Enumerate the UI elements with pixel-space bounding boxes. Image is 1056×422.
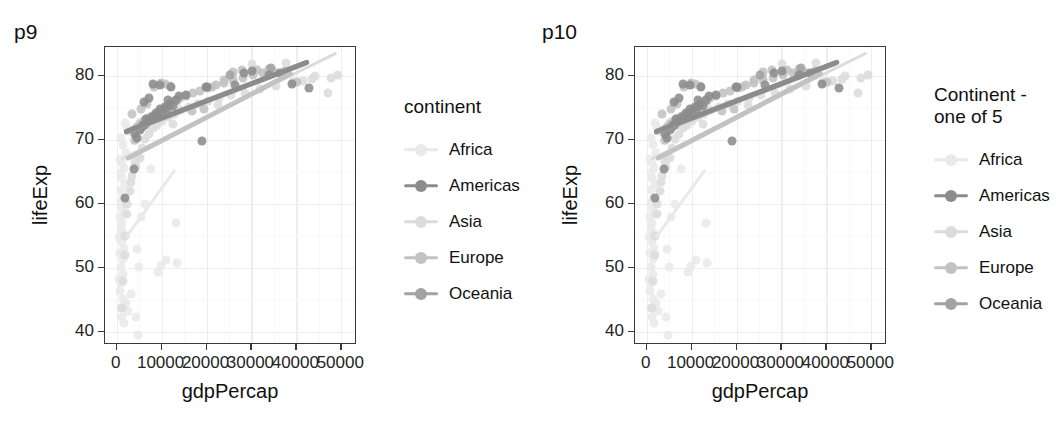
x-tick-mark [250, 344, 251, 350]
x-tick-label: 20000 [182, 353, 229, 373]
legend-key-dot [945, 190, 957, 202]
legend-key-dot [945, 226, 957, 238]
data-point [676, 164, 685, 173]
legend-item-africa[interactable]: Africa [404, 132, 520, 168]
x-tick-label: 50000 [847, 353, 894, 373]
x-tick-mark [780, 344, 781, 350]
data-point [145, 94, 154, 103]
y-tick-mark [98, 267, 104, 268]
data-point [841, 71, 850, 80]
data-point [121, 119, 130, 128]
data-point [656, 178, 665, 187]
legend-item-label: Oceania [979, 294, 1042, 314]
legend-key-dot [415, 180, 427, 192]
data-point [116, 262, 125, 271]
x-axis-title: gdpPercap [182, 380, 279, 403]
y-tick-mark [98, 203, 104, 204]
data-point [197, 137, 206, 146]
y-tick-mark [628, 267, 634, 268]
legend-item-label: Asia [979, 222, 1012, 242]
data-point [755, 70, 764, 79]
legend-key-icon [934, 291, 968, 317]
data-point [653, 209, 662, 218]
legend-item-americas[interactable]: Americas [934, 178, 1050, 214]
data-point [646, 262, 655, 271]
data-point [778, 67, 787, 76]
gridline-vertical [341, 47, 342, 343]
data-point [133, 244, 142, 253]
data-point [659, 164, 668, 173]
data-point [663, 330, 672, 339]
legend-item-europe[interactable]: Europe [934, 250, 1050, 286]
data-point [173, 258, 182, 267]
data-point [675, 94, 684, 103]
legend-item-label: Asia [449, 212, 482, 232]
gridline-vertical-minor [274, 47, 275, 343]
legend-key-dot [945, 154, 957, 166]
legend-key-dot [415, 144, 427, 156]
x-tick-label: 20000 [712, 353, 759, 373]
y-axis-title: lifeExp [559, 165, 582, 225]
legend-item-asia[interactable]: Asia [404, 204, 520, 240]
data-point [225, 70, 234, 79]
figure-root: p9010000200003000040000500004050607080gd… [0, 0, 1056, 422]
gridline-vertical-minor [139, 47, 140, 343]
x-tick-label: 30000 [227, 353, 274, 373]
legend-item-label: Oceania [449, 284, 512, 304]
plot-title-label: p10 [542, 20, 577, 44]
legend-item-oceania[interactable]: Oceania [934, 286, 1050, 322]
legend-key-icon [934, 219, 968, 245]
legend-item-label: Americas [449, 176, 520, 196]
x-axis-title: gdpPercap [712, 380, 809, 403]
legend-key-icon [934, 147, 968, 173]
legend-item-americas[interactable]: Americas [404, 168, 520, 204]
y-tick-label: 80 [68, 65, 94, 85]
y-tick-label: 50 [68, 257, 94, 277]
data-point [663, 244, 672, 253]
x-tick-label: 0 [641, 353, 650, 373]
legend-items: AfricaAmericasAsiaEuropeOceania [934, 142, 1050, 322]
legend-key-icon [404, 281, 438, 307]
data-point [686, 80, 695, 89]
data-point [248, 67, 257, 76]
gridline-horizontal-minor [635, 236, 885, 237]
legend-key-icon [404, 209, 438, 235]
gridline-horizontal-minor [635, 172, 885, 173]
x-tick-mark [161, 344, 162, 350]
legend-key-dot [945, 298, 957, 310]
legend: Continent - one of 5AfricaAmericasAsiaEu… [934, 84, 1050, 322]
y-tick-label: 50 [598, 257, 624, 277]
x-tick-label: 40000 [802, 353, 849, 373]
x-tick-mark [206, 344, 207, 350]
legend-item-africa[interactable]: Africa [934, 142, 1050, 178]
data-point [656, 289, 665, 298]
data-point [835, 84, 844, 93]
y-tick-mark [628, 75, 634, 76]
legend-item-asia[interactable]: Asia [934, 214, 1050, 250]
x-tick-mark [736, 344, 737, 350]
data-point [146, 164, 155, 173]
data-point [168, 119, 177, 128]
data-point [691, 256, 700, 265]
data-point [664, 263, 673, 272]
data-point [818, 80, 827, 89]
gridline-horizontal-minor [635, 300, 885, 301]
data-point [711, 91, 720, 100]
y-tick-mark [98, 139, 104, 140]
legend-item-label: Africa [449, 140, 492, 160]
x-tick-mark [825, 344, 826, 350]
data-point [854, 88, 863, 97]
legend-key-icon [934, 183, 968, 209]
legend-item-europe[interactable]: Europe [404, 240, 520, 276]
x-tick-mark [646, 344, 647, 350]
data-point [126, 178, 135, 187]
data-point [164, 95, 173, 104]
x-tick-mark [116, 344, 117, 350]
data-point [703, 258, 712, 267]
y-tick-mark [98, 75, 104, 76]
y-tick-label: 40 [598, 321, 624, 341]
data-point [134, 263, 143, 272]
legend-item-oceania[interactable]: Oceania [404, 276, 520, 312]
legend-key-icon [404, 173, 438, 199]
gridline-horizontal-minor [105, 236, 355, 237]
